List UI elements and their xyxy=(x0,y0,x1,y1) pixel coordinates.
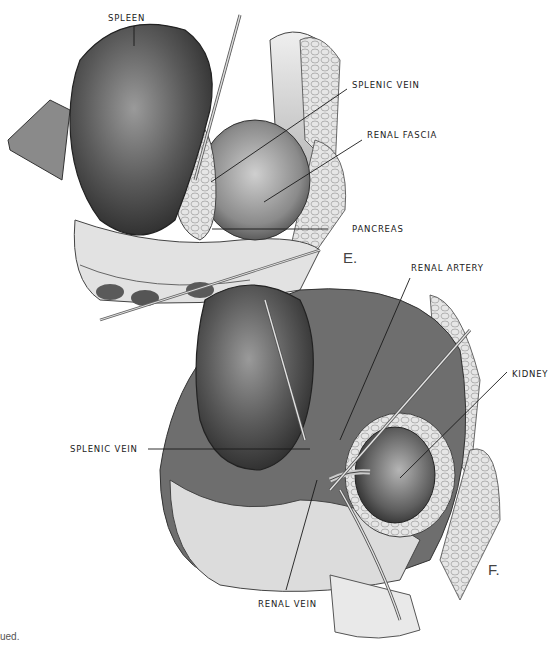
label-splenic-vein-e: SPLENIC VEIN xyxy=(352,81,420,90)
label-renal-artery: RENAL ARTERY xyxy=(411,264,484,273)
surgical-illustration: SPLEEN SPLENIC VEIN RENAL FASCIA PANCREA… xyxy=(0,0,557,647)
label-pancreas: PANCREAS xyxy=(352,225,404,234)
caption-fragment: ued. xyxy=(0,631,19,642)
label-renal-fascia: RENAL FASCIA xyxy=(367,131,437,140)
label-renal-vein: RENAL VEIN xyxy=(258,600,317,609)
panel-letter-f: F. xyxy=(488,561,500,578)
anatomy-drawing xyxy=(0,0,557,647)
panel-e-drawing xyxy=(8,15,346,320)
panel-f-drawing xyxy=(160,285,500,638)
label-splenic-vein-f: SPLENIC VEIN xyxy=(70,445,138,454)
label-spleen: SPLEEN xyxy=(108,14,145,23)
panel-letter-e: E. xyxy=(343,249,357,266)
label-kidney: KIDNEY xyxy=(512,370,548,379)
